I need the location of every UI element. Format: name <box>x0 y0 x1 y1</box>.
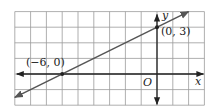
plotted-point <box>60 72 64 76</box>
point-label-neg6-0: (−6, 0) <box>26 57 65 68</box>
coordinate-plane <box>0 0 214 110</box>
origin-label: O <box>143 77 152 88</box>
x-axis-label: x <box>195 76 201 87</box>
point-label-0-3: (0, 3) <box>161 26 191 37</box>
plotted-point <box>155 25 159 29</box>
y-axis-label: y <box>162 10 168 21</box>
